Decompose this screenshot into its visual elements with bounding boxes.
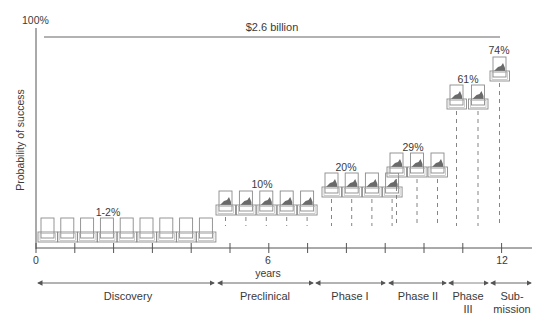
cost-line: $2.6 billion [44,21,500,37]
x-axis: 0 6 12 years [33,243,532,279]
drug-development-diagram: 100% Probability of success $2.6 billion… [0,0,542,323]
phase-timeline: Discovery Preclinical Phase I Phase II P… [38,283,531,315]
stage-label-phase-2: Phase II [398,290,438,302]
stage-label-phase-3-line2: III [463,303,472,315]
stage-label-phase-3-line1: Phase [452,290,483,302]
compound-icon [469,85,489,226]
cost-label: $2.6 billion [246,21,299,33]
compound-icon [97,218,117,242]
x-tick-label-0: 0 [33,254,39,266]
x-tick-label-6: 6 [265,254,271,266]
stage-label-phase-1: Phase I [331,290,368,302]
compound-icon [428,153,448,226]
compound-icon [196,218,216,242]
compound-icon [177,218,197,242]
compound-icon [58,218,78,242]
y-axis: 100% Probability of success [14,14,49,249]
probability-phase-1: 20% [335,161,356,173]
compound-icon [78,218,98,242]
stage-label-submission-line2: mission [493,303,530,315]
compound-icon [362,173,382,226]
probability-submission: 74% [488,44,509,56]
compound-icon [298,191,318,226]
compound-icon [216,191,236,226]
probability-phase-3: 61% [457,73,478,85]
compound-icon [117,218,137,242]
y-axis-label: Probability of success [14,89,26,191]
compound-icon [157,218,177,242]
compound-icon [408,153,428,226]
compound-icon [490,57,510,226]
probability-phase-2: 29% [402,141,423,153]
probability-preclinical: 10% [251,178,272,190]
stage-label-submission-line1: Sub- [500,290,524,302]
compound-icon [447,85,467,226]
stage-label-discovery: Discovery [104,290,153,302]
compound-icon [277,191,297,226]
x-tick-label-12: 12 [496,254,508,266]
compound-icon [137,218,157,242]
y-axis-top-label: 100% [22,14,49,26]
compound-icon [38,218,58,242]
x-axis-label: years [255,267,281,279]
probability-discovery: 1-2% [96,206,121,218]
compound-icon [322,173,342,226]
stage-label-preclinical: Preclinical [240,290,290,302]
compound-icon [236,191,256,226]
compound-icon [383,173,403,226]
compound-icon [342,173,362,226]
compound-icon [257,191,277,226]
